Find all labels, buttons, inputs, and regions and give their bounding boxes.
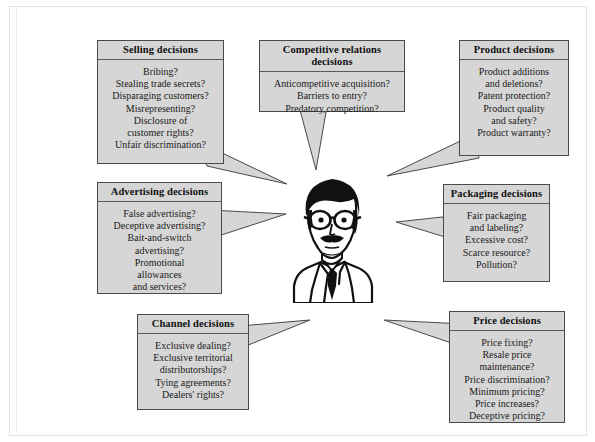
bubble-line: Minimum pricing? [454,386,560,398]
bubble-line: Product additions [464,66,564,78]
bubble-line: and services? [102,281,217,293]
bubble-line: maintenance? [454,361,560,373]
bubble-product[interactable]: Product decisions Product additions and … [459,40,569,156]
bubble-line: Product quality [464,103,564,115]
bubble-line: Fair packaging [448,210,545,222]
bubble-line: Price discrimination? [454,374,560,386]
bubble-line: Dealers' rights? [142,389,244,401]
bubble-line: Disparaging customers? [102,90,219,102]
bubble-product-title: Product decisions [460,41,568,60]
bubble-competitive-relations[interactable]: Competitive relations decisions Anticomp… [259,40,405,112]
bubble-line: Anticompetitive acquisition? [264,78,400,90]
bubble-advertising-title: Advertising decisions [98,183,221,202]
bubble-selling-title: Selling decisions [98,41,223,60]
bubble-channel-body: Exclusive dealing? Exclusive territorial… [138,334,248,407]
bubble-packaging-body: Fair packaging and labeling? Excessive c… [444,204,549,277]
bubble-line: Promotional [102,257,217,269]
bubble-line: Product warranty? [464,127,564,139]
bubble-line: Resale price [454,349,560,361]
bubble-selling[interactable]: Selling decisions Bribing? Stealing trad… [97,40,224,164]
bubble-line: advertising? [102,245,217,257]
bubble-line: Exclusive territorial [142,352,244,364]
bubble-line: Deceptive advertising? [102,220,217,232]
bubble-line: Misrepresenting? [102,103,219,115]
bubble-line: Barriers to entry? [264,90,400,102]
bubble-line: Excessive cost? [448,234,545,246]
bubble-packaging-title: Packaging decisions [444,185,549,204]
bubble-line: Deceptive pricing? [454,410,560,422]
bubble-competitive-relations-title: Competitive relations decisions [260,41,404,72]
bubble-line: and deletions? [464,78,564,90]
center-figure-businessman [276,168,386,303]
bubble-line: Predatory competition? [264,103,400,115]
bubble-line: False advertising? [102,208,217,220]
bubble-line: distributorships? [142,364,244,376]
bubble-advertising-body: False advertising? Deceptive advertising… [98,202,221,299]
bubble-line: Unfair discrimination? [102,139,219,151]
bubble-line: Disclosure of [102,115,219,127]
bubble-line: allowances [102,269,217,281]
bubble-line: Bribing? [102,66,219,78]
bubble-channel-title: Channel decisions [138,315,248,334]
bubble-line: Tying agreements? [142,377,244,389]
diagram-page: Selling decisions Bribing? Stealing trad… [0,0,595,442]
bubble-line: Patent protection? [464,90,564,102]
bubble-price[interactable]: Price decisions Price fixing? Resale pri… [449,311,565,423]
bubble-line: Price increases? [454,398,560,410]
bubble-line: and safety? [464,115,564,127]
bubble-line: and labeling? [448,222,545,234]
bubble-packaging[interactable]: Packaging decisions Fair packaging and l… [443,184,550,282]
bubble-advertising[interactable]: Advertising decisions False advertising?… [97,182,222,294]
bubble-selling-body: Bribing? Stealing trade secrets? Dispara… [98,60,223,157]
bubble-channel[interactable]: Channel decisions Exclusive dealing? Exc… [137,314,249,410]
bubble-line: Stealing trade secrets? [102,78,219,90]
bubble-product-body: Product additions and deletions? Patent … [460,60,568,145]
bubble-line: Bait-and-switch [102,232,217,244]
bubble-line: Exclusive dealing? [142,340,244,352]
bubble-price-title: Price decisions [450,312,564,331]
bubble-line: Scarce resource? [448,247,545,259]
bubble-line: Price fixing? [454,337,560,349]
bubble-line: customer rights? [102,127,219,139]
bubble-competitive-relations-body: Anticompetitive acquisition? Barriers to… [260,72,404,121]
bubble-price-body: Price fixing? Resale price maintenance? … [450,331,564,428]
bubble-line: Pollution? [448,259,545,271]
